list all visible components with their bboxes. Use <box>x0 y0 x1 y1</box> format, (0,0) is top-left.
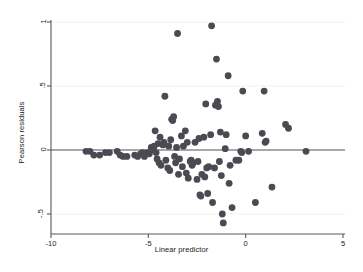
data-point <box>205 163 212 170</box>
data-point <box>124 153 131 160</box>
data-point <box>201 173 208 180</box>
data-point <box>216 158 223 165</box>
x-tick-label: -5 <box>133 239 163 248</box>
data-point <box>195 158 202 165</box>
data-point <box>207 131 214 138</box>
y-tick-label: .5 <box>21 81 45 90</box>
data-point <box>166 167 173 174</box>
data-point <box>226 180 233 187</box>
data-point <box>202 101 209 108</box>
data-point <box>223 131 230 138</box>
y-tick-label-text: 1 <box>38 19 47 23</box>
data-point <box>208 22 215 29</box>
data-point <box>222 145 229 152</box>
data-point <box>217 129 224 136</box>
x-tick-label: 0 <box>231 239 261 248</box>
y-tick-label-text: -.5 <box>36 209 45 218</box>
data-point <box>161 93 168 100</box>
data-point <box>235 157 242 164</box>
data-point <box>218 172 225 179</box>
data-point <box>269 184 276 191</box>
data-point <box>184 139 191 146</box>
data-point <box>170 113 177 120</box>
data-point <box>182 127 189 134</box>
data-point <box>220 220 227 227</box>
data-point <box>197 193 204 200</box>
data-point <box>239 88 246 95</box>
data-point <box>165 143 172 150</box>
data-point <box>259 130 266 137</box>
data-point <box>263 138 270 145</box>
data-point <box>158 162 165 169</box>
data-point <box>153 149 160 156</box>
data-point <box>215 103 222 110</box>
x-tick-label: 5 <box>328 239 358 248</box>
data-point <box>179 163 186 170</box>
y-tick-label: 0 <box>21 145 45 154</box>
data-point <box>175 171 182 178</box>
data-point <box>242 133 249 140</box>
data-point <box>211 165 218 172</box>
scatter-plot-figure: Linear predictor Pearson residuals -10-5… <box>0 0 363 272</box>
y-tick-label-text: .5 <box>37 82 46 88</box>
data-point <box>227 162 234 169</box>
data-point <box>185 175 192 182</box>
x-tick-label: -10 <box>36 239 66 248</box>
data-point <box>204 190 211 197</box>
data-point <box>245 148 252 155</box>
data-point <box>200 134 207 141</box>
data-point <box>303 148 310 155</box>
data-point <box>162 157 169 164</box>
y-tick-label-text: 0 <box>38 147 47 151</box>
data-point <box>96 152 103 159</box>
data-point <box>219 211 226 218</box>
data-point <box>152 127 159 134</box>
y-tick-label: -.5 <box>21 209 45 218</box>
data-point <box>209 199 216 206</box>
data-point <box>106 149 113 156</box>
data-point <box>229 204 236 211</box>
data-point <box>285 125 292 132</box>
plot-canvas <box>0 0 363 272</box>
data-point <box>261 88 268 95</box>
data-point <box>167 136 174 143</box>
data-point <box>213 56 220 63</box>
data-point <box>225 72 232 79</box>
data-point <box>238 149 245 156</box>
data-point <box>173 144 180 151</box>
data-point <box>194 176 201 183</box>
data-point <box>90 152 97 159</box>
data-point <box>252 199 259 206</box>
data-point <box>176 156 183 163</box>
data-point <box>174 30 181 37</box>
y-tick-label: 1 <box>21 17 45 26</box>
